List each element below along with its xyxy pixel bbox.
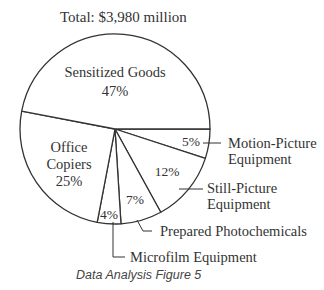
- leader-line-prepared-photochemicals: [137, 220, 152, 231]
- slice-pct-still-picture: 12%: [155, 164, 180, 179]
- leader-line-microfilm: [113, 222, 125, 257]
- outer-label-still-picture-line2: Equipment: [207, 196, 271, 212]
- chart-title: Total: $3,980 million: [60, 9, 187, 25]
- outer-label-prepared-photochemicals: Prepared Photochemicals: [160, 223, 307, 239]
- pie-chart: Total: $3,980 million Sensitized Goods 4…: [0, 0, 324, 290]
- slice-label-office-copiers-line1: Office: [51, 139, 88, 155]
- slice-label-sensitized-goods: Sensitized Goods: [64, 64, 165, 80]
- slice-pct-office-copiers: 25%: [56, 173, 83, 189]
- outer-label-still-picture-line1: Still-Picture: [207, 180, 277, 196]
- slice-pct-prepared-photochemicals: 7%: [126, 192, 144, 207]
- figure-caption: Data Analysis Figure 5: [76, 268, 201, 282]
- slice-pct-microfilm: 4%: [100, 207, 118, 222]
- pie-slices: [20, 34, 210, 224]
- outer-label-motion-picture-line1: Motion-Picture: [228, 135, 317, 151]
- pie-slice-sensitized-goods: [22, 34, 210, 129]
- slice-label-office-copiers-line2: Copiers: [46, 156, 91, 172]
- slice-pct-motion-picture: 5%: [182, 134, 200, 149]
- slice-pct-sensitized-goods: 47%: [102, 83, 129, 99]
- outer-label-motion-picture-line2: Equipment: [228, 151, 292, 167]
- outer-label-microfilm: Microfilm Equipment: [130, 249, 257, 265]
